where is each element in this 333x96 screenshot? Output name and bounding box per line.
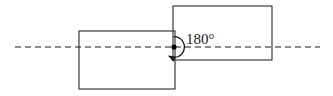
figure-canvas: 180°	[0, 0, 333, 96]
geometry-figure: 180°	[0, 0, 333, 96]
rotation-center-point	[171, 44, 176, 49]
angle-label: 180°	[186, 31, 215, 47]
pre-image-rectangle	[79, 31, 175, 89]
